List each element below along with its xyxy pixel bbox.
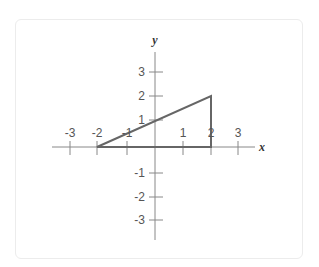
y-tick-label: -3 <box>134 213 145 227</box>
y-tick-label: 3 <box>138 65 145 79</box>
y-tick-label: -1 <box>134 166 145 180</box>
y-axis-label: y <box>150 33 158 47</box>
x-tick-label: -1 <box>122 126 133 140</box>
x-tick-label: 3 <box>235 126 242 140</box>
triangle-shape <box>97 96 211 147</box>
coordinate-plane: -3 -2 -1 1 2 3 3 2 1 -1 -2 -3 x y <box>0 0 319 267</box>
x-tick-label: 2 <box>208 126 215 140</box>
x-tick-label: -3 <box>65 126 76 140</box>
y-tick-label: 2 <box>138 89 145 103</box>
y-tick-label: -2 <box>134 190 145 204</box>
x-tick-label: -2 <box>92 126 103 140</box>
x-tick-label: 1 <box>180 126 187 140</box>
x-axis-label: x <box>258 140 265 154</box>
y-tick-label: 1 <box>138 113 145 127</box>
